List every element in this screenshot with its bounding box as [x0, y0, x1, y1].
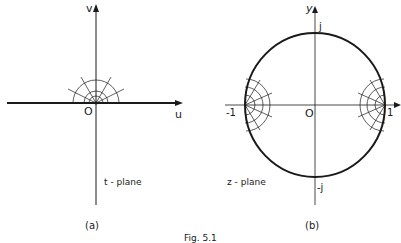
- figure-caption: Fig. 5.1: [184, 234, 217, 243]
- x-axis-arrow: [394, 102, 401, 108]
- v-axis-label: v: [86, 3, 93, 14]
- left-ray: [245, 93, 272, 105]
- panel-a-drawing: [7, 4, 183, 205]
- z-plane-label: z - plane: [227, 178, 266, 187]
- y-axis-label: y: [306, 3, 313, 14]
- origin-label-a: O: [84, 106, 93, 117]
- origin-label-b: O: [305, 108, 314, 119]
- origin-dot: [95, 102, 98, 105]
- right-ray: [358, 93, 385, 105]
- panel-a-label: (a): [85, 221, 99, 231]
- u-axis-label: u: [175, 109, 182, 120]
- left-ray: [245, 105, 272, 117]
- v-axis-arrow: [93, 4, 99, 12]
- t-plane-label: t - plane: [104, 178, 141, 187]
- point-minus-1-label: -1: [226, 108, 236, 118]
- panel-b-drawing: [225, 6, 401, 205]
- right-ray: [358, 105, 385, 117]
- point-j-label: j: [319, 22, 322, 32]
- u-axis-arrow: [175, 100, 183, 106]
- point-1-label: 1: [387, 108, 393, 118]
- point-minus-j-label: -j: [317, 183, 323, 193]
- panel-b-label: (b): [305, 221, 319, 231]
